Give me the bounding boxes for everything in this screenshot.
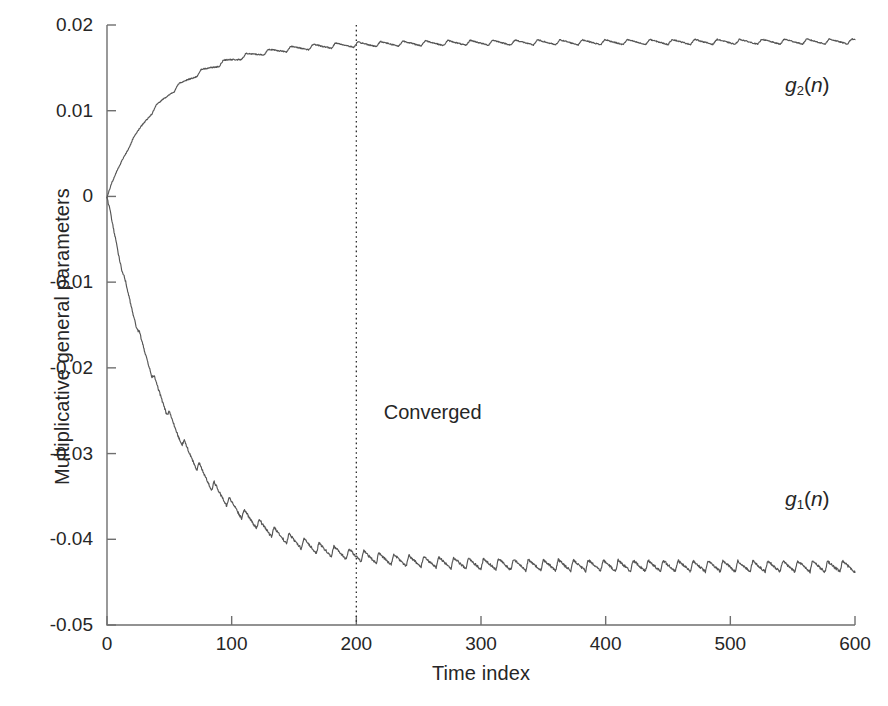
series-line bbox=[107, 39, 855, 198]
series-label-symbol: g bbox=[785, 487, 797, 510]
series-label-argument-close: ) bbox=[823, 487, 830, 510]
y-tick-label: -0.01 bbox=[0, 271, 93, 293]
y-tick-label: -0.04 bbox=[0, 528, 93, 550]
converged-label: Converged bbox=[384, 401, 482, 424]
series-label-g2n: g2(n) bbox=[785, 73, 830, 97]
x-tick-label: 0 bbox=[102, 633, 113, 655]
x-axis-label-text: Time index bbox=[432, 662, 530, 684]
y-axis-label: Multiplicative general parameters bbox=[51, 107, 74, 567]
series-label-symbol: g bbox=[785, 73, 797, 96]
x-tick-label: 100 bbox=[216, 633, 248, 655]
series-label-variable: n bbox=[811, 73, 823, 96]
data-series bbox=[107, 39, 855, 573]
series-line bbox=[107, 198, 855, 574]
x-tick-label: 200 bbox=[340, 633, 372, 655]
y-axis-label-text: Multiplicative general parameters bbox=[51, 188, 73, 485]
series-label-subscript: 1 bbox=[797, 497, 804, 512]
series-label-argument: ( bbox=[804, 487, 811, 510]
plot-canvas bbox=[0, 0, 888, 706]
y-tick-label: -0.02 bbox=[0, 357, 93, 379]
series-label-variable: n bbox=[811, 487, 823, 510]
x-tick-label: 400 bbox=[590, 633, 622, 655]
y-tick-label: 0.02 bbox=[0, 14, 93, 36]
series-label-argument-close: ) bbox=[823, 73, 830, 96]
series-label-subscript: 2 bbox=[797, 83, 804, 98]
series-label-argument: ( bbox=[804, 73, 811, 96]
y-tick-label: -0.05 bbox=[0, 614, 93, 636]
series-label-g1n: g1(n) bbox=[785, 487, 830, 511]
y-tick-label: -0.03 bbox=[0, 443, 93, 465]
y-tick-label: 0 bbox=[0, 185, 93, 207]
y-tick-label: 0.01 bbox=[0, 100, 93, 122]
chart-figure: 0.020.010-0.01-0.02-0.03-0.04-0.05 01002… bbox=[0, 0, 888, 706]
x-tick-label: 500 bbox=[714, 633, 746, 655]
x-tick-label: 300 bbox=[465, 633, 497, 655]
x-tick-label: 600 bbox=[839, 633, 871, 655]
x-axis-label: Time index bbox=[107, 662, 855, 685]
axes bbox=[107, 25, 855, 625]
